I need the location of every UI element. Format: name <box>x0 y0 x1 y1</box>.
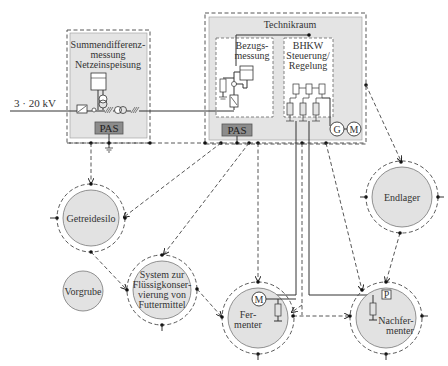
ground-icon <box>105 148 113 152</box>
nachfermenter-fuse-icon <box>370 303 376 315</box>
bezug-switch-icon <box>230 95 238 107</box>
node-endlager: Endlager <box>360 160 444 235</box>
summendifferenz-label-3: Netzeinspeisung <box>75 59 141 70</box>
vorgrube-label: Vorgrube <box>65 286 102 297</box>
fermenter-motor-label: M <box>255 294 264 305</box>
voltage-label: 3 · 20 kV <box>14 97 56 109</box>
current-transformer-icon <box>92 108 96 112</box>
pressure-sensor-label: P <box>384 289 390 300</box>
node-vorgrube: Vorgrube <box>63 271 103 311</box>
power-line-fermenter <box>269 121 296 295</box>
node-system-fluessigkonservierung: System zur Flüssigkonser- vierung von Fu… <box>125 253 199 331</box>
bezug-meter-icon <box>240 66 253 80</box>
motor-label: M <box>350 124 359 135</box>
technikraum-title: Technikraum <box>264 19 317 30</box>
node-getreidesilo: Getreidesilo <box>50 182 127 254</box>
summendifferenz-block: Summendifferenz- messung Netzeinspeisung <box>67 30 150 152</box>
diagram-canvas: Summendifferenz- messung Netzeinspeisung <box>0 0 448 366</box>
nachfermenter-label-2: menter <box>386 325 414 336</box>
fermenter-label-2: menter <box>234 319 262 330</box>
bezug-fuse-icon <box>220 79 226 92</box>
generator-label: G <box>333 124 340 135</box>
bezugsmessung-label-2: messung <box>235 50 270 61</box>
system-label-4: Futtermittel <box>138 299 185 310</box>
node-nachfermenter: P Nachfer- menter <box>348 280 428 360</box>
technikraum-block: Technikraum Bezugs- messung BHKW Steueru… <box>205 13 366 144</box>
pas-label-left: PAS <box>99 122 118 134</box>
bezug-ct-icon <box>232 82 237 87</box>
endlager-label: Endlager <box>384 192 421 203</box>
disconnector-icon <box>77 105 87 113</box>
energy-meter-icon <box>91 73 106 90</box>
bhkw-label-3: Regelung <box>289 60 327 71</box>
pas-label-right: PAS <box>227 124 246 136</box>
getreidesilo-label: Getreidesilo <box>67 213 116 224</box>
node-fermenter: M Fer- menter <box>220 280 296 360</box>
fermenter-sensor-icon <box>275 304 281 316</box>
